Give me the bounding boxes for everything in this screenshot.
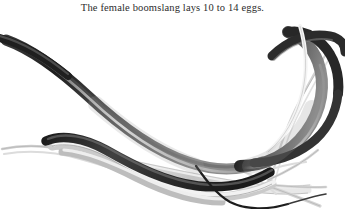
boomslang-illustration (0, 16, 345, 209)
illustration-canvas (0, 16, 345, 209)
page-caption: The female boomslang lays 10 to 14 eggs. (0, 1, 345, 14)
illustration-page: The female boomslang lays 10 to 14 eggs. (0, 0, 345, 209)
